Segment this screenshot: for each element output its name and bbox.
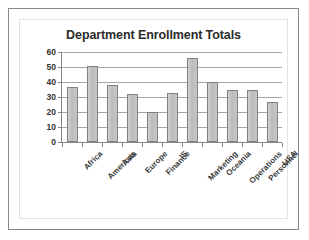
bar-finance[interactable]: [147, 112, 158, 142]
bar-asia[interactable]: [107, 85, 118, 142]
x-label-africa: Africa: [83, 150, 105, 172]
chart-window: Department Enrollment Totals 60504030201…: [8, 8, 299, 230]
bar-americas[interactable]: [87, 66, 98, 143]
gridline-60: [62, 52, 282, 53]
bar-personnel[interactable]: [247, 90, 258, 143]
x-tick-mark-3: [122, 143, 123, 147]
chart-plot-frame: Department Enrollment Totals 60504030201…: [19, 19, 288, 219]
bar-africa[interactable]: [67, 87, 78, 143]
x-tick-mark-5: [162, 143, 163, 147]
gridline-0: [62, 142, 282, 143]
bar-marketing[interactable]: [187, 58, 198, 142]
y-tick-label-0: 0: [32, 138, 56, 147]
plot-area: [62, 52, 282, 142]
x-tick-mark-4: [142, 143, 143, 147]
x-label-asia: Asia: [121, 150, 139, 168]
bar-operations[interactable]: [227, 90, 238, 143]
x-tick-mark-8: [222, 143, 223, 147]
y-tick-label-20: 20: [32, 108, 56, 117]
chart-title: Department Enrollment Totals: [20, 28, 287, 42]
y-tick-label-10: 10: [32, 123, 56, 132]
y-tick-label-30: 30: [32, 93, 56, 102]
x-tick-mark-11: [282, 143, 283, 147]
y-tick-label-50: 50: [32, 63, 56, 72]
x-tick-mark-7: [202, 143, 203, 147]
x-tick-mark-9: [242, 143, 243, 147]
bar-is[interactable]: [167, 93, 178, 143]
bar-usa[interactable]: [267, 102, 278, 143]
x-tick-mark-0: [62, 143, 63, 147]
x-tick-mark-10: [262, 143, 263, 147]
bar-europe[interactable]: [127, 94, 138, 142]
y-tick-label-60: 60: [32, 48, 56, 57]
y-tick-label-40: 40: [32, 78, 56, 87]
x-tick-mark-6: [182, 143, 183, 147]
x-tick-mark-2: [102, 143, 103, 147]
x-tick-mark-1: [82, 143, 83, 147]
bar-oceania[interactable]: [207, 82, 218, 142]
